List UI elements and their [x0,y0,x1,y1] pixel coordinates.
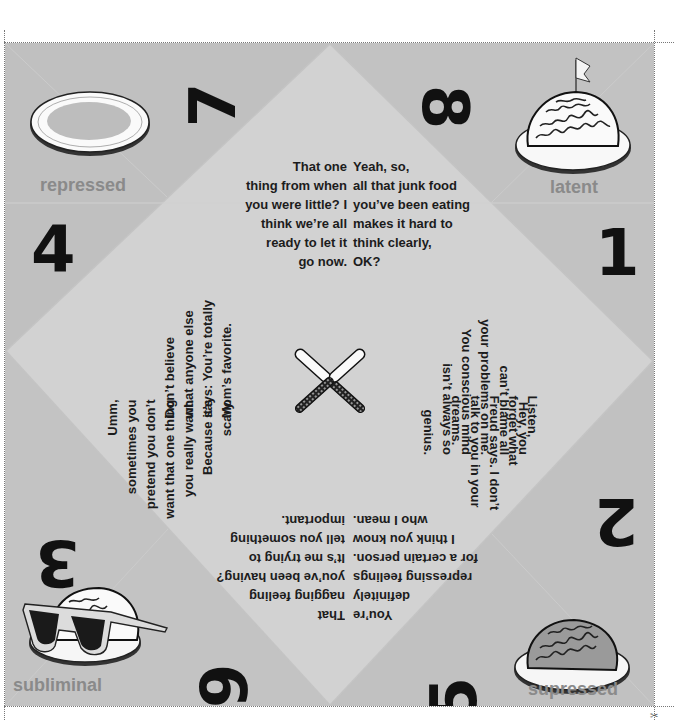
crossed-knives-icon [287,341,373,421]
brain-with-flag-icon [510,48,636,178]
scissors-icon: ✂ [650,710,658,721]
flap-number-2[interactable]: 2 [594,489,639,553]
fortune-message-4: Don’t believe what anyone else says: You… [160,268,236,418]
fortune-message-7: That one thing from when you were little… [211,157,347,271]
cut-line-right [654,30,655,720]
flap-number-4[interactable]: 4 [31,218,76,282]
flap-number-6[interactable]: 6 [190,664,254,706]
empty-plate-icon [27,88,153,158]
corner-label-latent: latent [550,177,598,198]
corner-label-subliminal: subliminal [13,675,102,696]
flap-number-7[interactable]: 7 [181,83,245,128]
corner-label-supressed: supressed [528,679,618,700]
flap-number-5[interactable]: 5 [422,677,486,706]
fortune-message-3: Umm, sometimes you pretend you don’t wan… [103,400,236,560]
fortune-message-5: You’re definitely repressing feelings fo… [353,511,503,625]
flap-number-8[interactable]: 8 [413,85,477,130]
fortune-teller-sheet: repressed latent subliminal supressed 7 … [5,43,654,706]
flap-number-3[interactable]: 3 [35,531,80,595]
corner-label-repressed: repressed [40,175,126,196]
cut-line-bottom [4,706,674,707]
fortune-message-8: Yeah, so, all that junk food you’ve been… [353,157,470,271]
flap-number-1[interactable]: 1 [595,221,640,285]
